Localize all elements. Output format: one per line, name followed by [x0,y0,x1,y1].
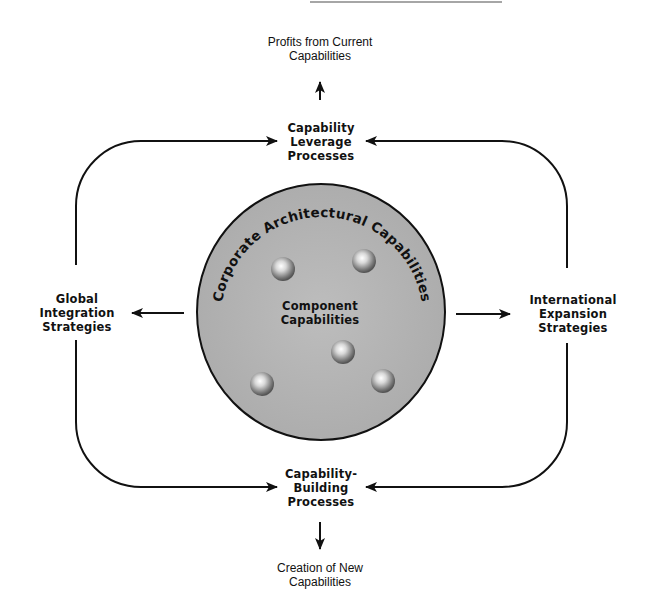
label-line: Capabilities [260,314,380,328]
component-sphere [371,369,395,393]
component-sphere [271,257,295,281]
profits-from-current-capabilities: Profits from Current Capabilities [220,35,420,64]
label-line: Component [260,300,380,314]
label-line: Capabilities [220,575,420,589]
label-line: International [513,294,633,308]
component-sphere [331,340,355,364]
label-line: Leverage [260,136,382,150]
label-line: Global [18,293,136,307]
component-sphere [250,372,274,396]
label-line: Integration [18,307,136,321]
label-line: Strategies [18,321,136,335]
component-capabilities-label: Component Capabilities [260,300,380,328]
label-line: Capabilities [220,49,420,63]
label-line: Capability- [260,468,382,482]
global-integration-strategies: Global Integration Strategies [18,293,136,334]
label-line: Creation of New [220,561,420,575]
component-sphere [352,249,376,273]
international-expansion-strategies: International Expansion Strategies [513,294,633,335]
label-line: Strategies [513,322,633,336]
label-line: Building [260,482,382,496]
label-line: Processes [260,150,382,164]
label-line: Capability [260,122,382,136]
creation-of-new-capabilities: Creation of New Capabilities [220,561,420,590]
label-line: Profits from Current [220,35,420,49]
capability-leverage-processes: Capability Leverage Processes [260,122,382,163]
label-line: Processes [260,496,382,510]
label-line: Expansion [513,308,633,322]
capability-building-processes: Capability- Building Processes [260,468,382,509]
